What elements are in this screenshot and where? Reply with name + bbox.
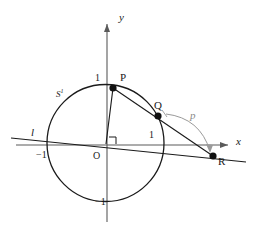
point-p-label: P [120,72,126,83]
line-l-label: l [31,127,34,138]
y-tick-one-label: 1 [95,73,100,83]
map-arrow-p [162,110,213,153]
geometry-figure: y x 1 −1 1 −1 O S1 l P Q R p [0,0,261,238]
figure-canvas [0,0,261,238]
x-tick-one-label: 1 [149,130,154,140]
segment-pr [113,88,213,156]
point-r-label: R [218,156,225,167]
x-tick-minus-one-label: −1 [36,150,47,160]
circle-label: S1 [56,88,64,99]
x-axis-label: x [236,136,241,147]
circle-label-superscript: 1 [61,88,64,94]
right-angle-mark [109,137,116,144]
point-p-dot [109,84,116,91]
y-tick-minus-one-label: −1 [95,197,106,207]
y-axis-label: y [119,12,124,23]
map-p-label: p [190,110,196,121]
point-q-label: Q [154,100,162,111]
point-q-dot [154,112,161,119]
point-r-dot [209,152,216,159]
origin-label: O [93,151,100,161]
